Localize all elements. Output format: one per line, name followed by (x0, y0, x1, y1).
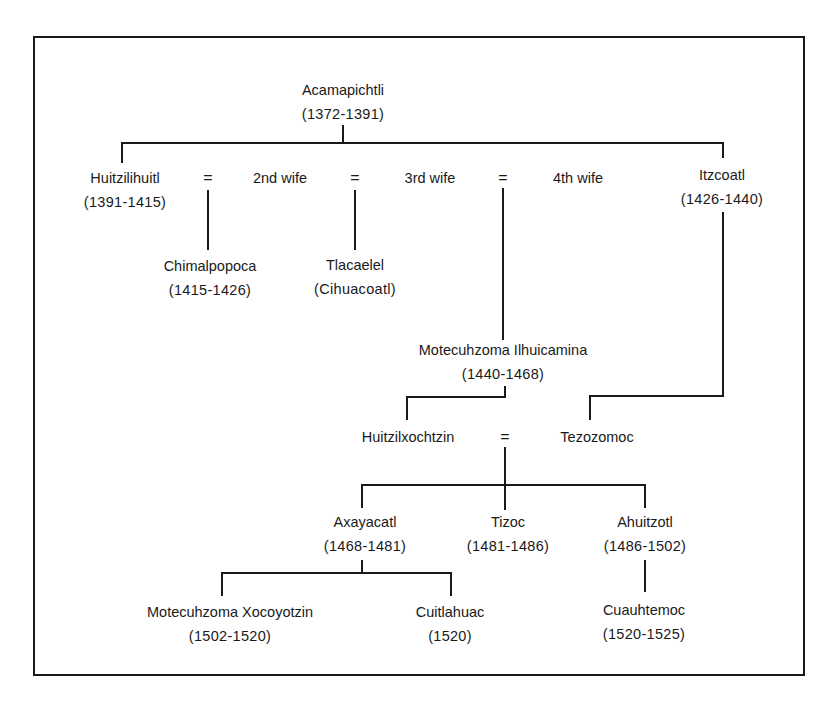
person-name: Ahuitzotl (604, 510, 686, 534)
person-acamapichtli: Acamapichtli (1372-1391) (302, 78, 384, 126)
person-name: Cuitlahuac (416, 600, 485, 624)
generation1-bracket (122, 143, 723, 163)
person-name: Motecuhzoma Xocoyotzin (147, 600, 313, 624)
person-dates: (1520-1525) (603, 622, 685, 646)
person-dates: (1486-1502) (604, 534, 686, 558)
person-dates: (1440-1468) (419, 362, 587, 386)
marriage-symbol: = (350, 166, 359, 190)
person-dates: (1520) (416, 624, 485, 648)
person-motecuhzoma-xocoyotzin: Motecuhzoma Xocoyotzin (1502-1520) (147, 600, 313, 648)
person-name: Itzcoatl (681, 163, 763, 187)
person-dates: (1426-1440) (681, 187, 763, 211)
person-name: Acamapichtli (302, 78, 384, 102)
person-name: Tlacaelel (314, 253, 396, 277)
generation-axayacatl-bracket (362, 485, 645, 508)
person-tlacaelel: Tlacaelel (Cihuacoatl) (314, 253, 396, 301)
person-name: Cuauhtemoc (603, 598, 685, 622)
person-cuauhtemoc: Cuauhtemoc (1520-1525) (603, 598, 685, 646)
person-tizoc: Tizoc (1481-1486) (467, 510, 549, 558)
person-dates: (1372-1391) (302, 102, 384, 126)
person-itzcoatl: Itzcoatl (1426-1440) (681, 163, 763, 211)
person-3rd-wife: 3rd wife (405, 166, 456, 190)
person-ahuitzotl: Ahuitzotl (1486-1502) (604, 510, 686, 558)
person-dates: (1481-1486) (467, 534, 549, 558)
person-name: 2nd wife (253, 166, 307, 190)
person-dates: (1391-1415) (84, 190, 166, 214)
person-name: 4th wife (553, 166, 603, 190)
person-name: Chimalpopoca (164, 254, 257, 278)
line-itzcoatl-to-tezozomoc (590, 212, 723, 420)
person-4th-wife: 4th wife (553, 166, 603, 190)
marriage-symbol: = (203, 166, 212, 190)
person-name: Axayacatl (324, 510, 406, 534)
person-name: Tezozomoc (560, 425, 633, 449)
person-name: 3rd wife (405, 166, 456, 190)
marriage-symbol: = (500, 425, 509, 449)
person-name: Huitzilxochtzin (362, 425, 455, 449)
line-ilhuicamina-to-huitzilxochtzin (407, 386, 505, 420)
person-cuitlahuac: Cuitlahuac (1520) (416, 600, 485, 648)
axayacatl-children-bracket (222, 573, 451, 596)
person-axayacatl: Axayacatl (1468-1481) (324, 510, 406, 558)
person-name: Huitzilihuitl (84, 166, 166, 190)
person-2nd-wife: 2nd wife (253, 166, 307, 190)
person-chimalpopoca: Chimalpopoca (1415-1426) (164, 254, 257, 302)
person-huitzilihuitl: Huitzilihuitl (1391-1415) (84, 166, 166, 214)
person-name: Motecuhzoma Ilhuicamina (419, 338, 587, 362)
person-dates: (1415-1426) (164, 278, 257, 302)
person-dates: (1502-1520) (147, 624, 313, 648)
person-huitzilxochtzin: Huitzilxochtzin (362, 425, 455, 449)
person-motecuhzoma-ilhuicamina: Motecuhzoma Ilhuicamina (1440-1468) (419, 338, 587, 386)
person-name: Tizoc (467, 510, 549, 534)
person-title: (Cihuacoatl) (314, 277, 396, 301)
marriage-symbol: = (498, 166, 507, 190)
person-dates: (1468-1481) (324, 534, 406, 558)
person-tezozomoc: Tezozomoc (560, 425, 633, 449)
